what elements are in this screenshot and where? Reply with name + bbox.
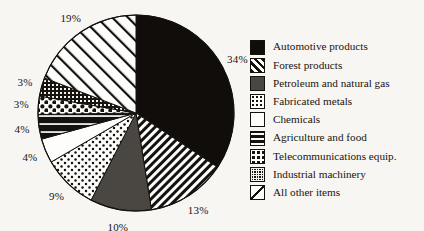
- legend-swatch-solid-black-icon: [250, 40, 265, 55]
- legend-item-label: Fabricated metals: [273, 96, 352, 107]
- legend-item-label: Industrial machinery: [273, 169, 366, 180]
- legend-item[interactable]: Telecommunications equip.: [250, 147, 422, 165]
- pie-chart-figure: 34%13%10%9%4%4%3%3%19% Automotive produc…: [0, 0, 424, 231]
- legend-item[interactable]: Petroleum and natural gas: [250, 74, 422, 92]
- legend-item-label: Telecommunications equip.: [273, 151, 397, 162]
- legend-item[interactable]: Agriculture and food: [250, 129, 422, 147]
- chart-legend: Automotive productsForest productsPetrol…: [250, 38, 422, 202]
- legend-swatch-dense-grid-icon: [250, 167, 265, 182]
- legend-item-label: Petroleum and natural gas: [273, 78, 390, 89]
- legend-item[interactable]: Industrial machinery: [250, 165, 422, 183]
- legend-swatch-solid-dark-gray-icon: [250, 76, 265, 91]
- legend-item-label: All other items: [273, 187, 340, 198]
- legend-item[interactable]: Chemicals: [250, 111, 422, 129]
- legend-item[interactable]: Fabricated metals: [250, 93, 422, 111]
- legend-item[interactable]: Forest products: [250, 56, 422, 74]
- legend-swatch-fine-dots-icon: [250, 94, 265, 109]
- legend-item-label: Agriculture and food: [273, 132, 367, 143]
- pie-slices: [38, 15, 234, 211]
- legend-swatch-plain-white-icon: [250, 112, 265, 127]
- pie-slice-percentage: 3%: [18, 76, 33, 88]
- pie-slice-percentage: 4%: [15, 123, 30, 135]
- legend-item-label: Chemicals: [273, 114, 320, 125]
- pie-slice-percentage: 3%: [14, 98, 29, 110]
- legend-swatch-diagonal-hatch-icon: [250, 58, 265, 73]
- legend-item-label: Automotive products: [273, 41, 368, 52]
- pie-slice-percentage: 10%: [107, 221, 128, 231]
- legend-swatch-horizontal-bands-icon: [250, 131, 265, 146]
- legend-item[interactable]: Automotive products: [250, 38, 422, 56]
- pie-slice-percentage: 4%: [22, 151, 37, 163]
- legend-item[interactable]: All other items: [250, 184, 422, 202]
- legend-swatch-wide-diagonal-icon: [250, 185, 265, 200]
- pie-slice-percentage: 34%: [227, 53, 248, 65]
- pie-slice-percentage: 9%: [49, 190, 64, 202]
- legend-item-label: Forest products: [273, 60, 342, 71]
- pie-slice-percentage: 19%: [60, 12, 81, 24]
- legend-swatch-polka-dots-icon: [250, 149, 265, 164]
- pie-slice-percentage: 13%: [188, 204, 209, 216]
